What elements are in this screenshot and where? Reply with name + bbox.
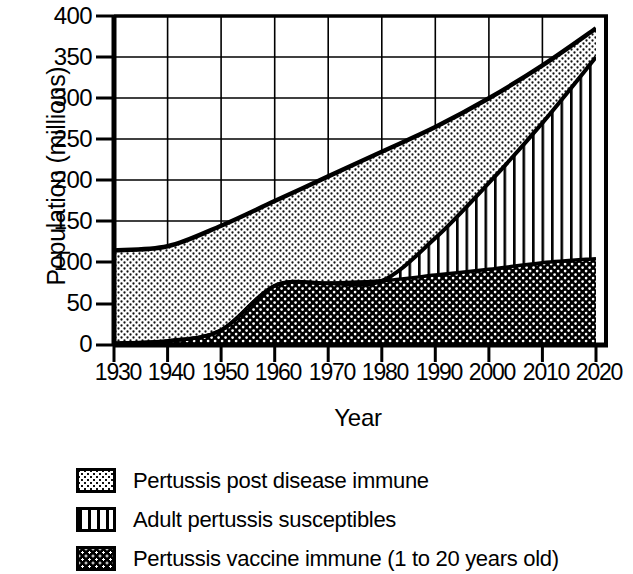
legend-item-adult-susceptibles: Adult pertussis susceptibles [76, 501, 632, 538]
light-dots-swatch-icon [76, 468, 116, 493]
plot-area [0, 0, 633, 400]
legend-item-post-disease-immune: Pertussis post disease immune [76, 462, 632, 499]
legend-label-post-disease-immune: Pertussis post disease immune [133, 468, 429, 494]
legend-label-adult-susceptibles: Adult pertussis susceptibles [133, 507, 396, 533]
legend-label-vaccine-immune: Pertussis vaccine immune (1 to 20 years … [133, 546, 559, 572]
x-tick-label-2020: 2020 [564, 361, 633, 384]
vertical-stripes-swatch-icon [76, 507, 116, 532]
x-axis-tick-labels: 1930 1940 1950 1960 1970 1980 1990 2000 … [0, 361, 633, 395]
x-axis-title: Year [108, 404, 608, 432]
chart-legend: Pertussis post disease immune Adult pert… [76, 462, 632, 574]
y-axis-ticks [96, 16, 114, 345]
pertussis-population-chart: Population (millions) 400 350 300 250 20… [0, 0, 633, 574]
dark-cross-hatch-swatch-icon [76, 546, 116, 571]
legend-item-vaccine-immune: Pertussis vaccine immune (1 to 20 years … [76, 540, 632, 574]
